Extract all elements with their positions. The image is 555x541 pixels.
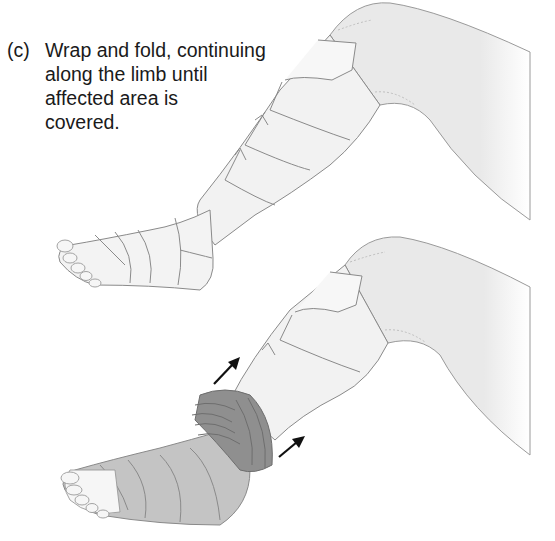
arrow-up-limb-right [279, 436, 305, 457]
arrow-up-limb-left [214, 357, 240, 384]
leg-fully-wrapped [57, 3, 530, 290]
illustration [0, 0, 555, 541]
